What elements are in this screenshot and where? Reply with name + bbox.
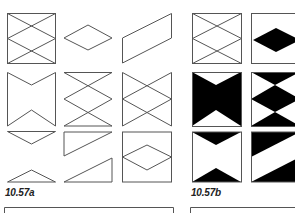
shape-triangle-up [8, 170, 56, 182]
shape-b-black-rhombus [253, 28, 295, 52]
shape-right-triangle-lower [64, 158, 112, 182]
caption-b: 10.57b [191, 187, 221, 198]
figure-diagram [0, 0, 295, 213]
shape-triangle-down [8, 132, 56, 145]
bottom-box-a [5, 208, 174, 214]
shape-b-notched-white-square [192, 132, 241, 182]
shape-double-x-with-sides [123, 73, 172, 127]
shape-b-square-double-x [193, 14, 242, 64]
shape-square-with-rhombus [123, 132, 172, 182]
caption-a: 10.57a [5, 187, 34, 198]
shape-b-stacked-triangles [251, 72, 295, 126]
bottom-box-b [191, 208, 296, 214]
shape-double-x-hourglass [64, 73, 112, 127]
shape-right-triangle-upper [64, 132, 112, 156]
shape-b-black-bowtie [192, 72, 241, 126]
shape-b-diagonal-split [251, 132, 295, 182]
shape-rhombus [64, 25, 112, 50]
shape-square-double-x [8, 14, 56, 64]
shape-notched-banner [8, 73, 56, 127]
shape-parallelogram [123, 14, 172, 64]
